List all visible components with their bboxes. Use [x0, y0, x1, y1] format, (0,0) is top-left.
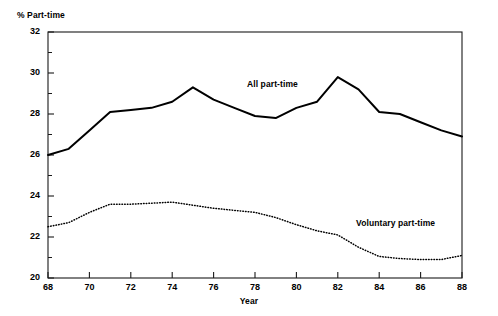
y-axis-label: % Part-time	[17, 10, 65, 20]
x-tick-label: 68	[36, 283, 60, 292]
y-tick-label: 32	[14, 27, 40, 36]
x-tick-label: 82	[326, 283, 350, 292]
y-tick-label: 20	[14, 273, 40, 282]
y-tick-label: 24	[14, 191, 40, 200]
chart-figure: % Part-time Year 20222426283032 68707274…	[0, 0, 498, 316]
x-tick-label: 76	[202, 283, 226, 292]
x-tick-label: 86	[409, 283, 433, 292]
x-tick-label: 78	[243, 283, 267, 292]
x-tick-label: 70	[77, 283, 101, 292]
x-tick-label: 84	[367, 283, 391, 292]
y-tick-label: 26	[14, 150, 40, 159]
series-lines	[48, 77, 462, 259]
plot-area	[0, 0, 498, 316]
x-tick-label: 88	[450, 283, 474, 292]
x-axis-label: Year	[0, 296, 498, 306]
axis-tick-marks	[48, 32, 462, 278]
x-tick-label: 80	[284, 283, 308, 292]
series-label-voluntary-part-time: Voluntary part-time	[356, 218, 435, 228]
x-tick-label: 72	[119, 283, 143, 292]
x-tick-label: 74	[160, 283, 184, 292]
series-label-all-part-time: All part-time	[247, 79, 298, 89]
chart-title	[0, 0, 498, 4]
y-tick-label: 22	[14, 232, 40, 241]
y-tick-label: 30	[14, 68, 40, 77]
y-tick-label: 28	[14, 109, 40, 118]
axis-frame	[48, 32, 462, 278]
